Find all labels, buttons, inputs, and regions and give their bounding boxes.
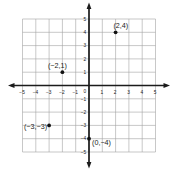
x-tick-label: 2 — [114, 90, 117, 95]
x-tick-label: 3 — [127, 90, 130, 95]
point-label: (0,−4) — [92, 138, 111, 147]
y-tick-label: 5 — [84, 17, 87, 22]
coordinate-plane-svg: −5−4−3−2−11234554321−1−2−3−4−50(2,4)(−2,… — [0, 0, 178, 172]
x-tick-label: 4 — [140, 90, 143, 95]
origin-tick-label: 0 — [84, 89, 87, 94]
y-tick-label: −3 — [81, 123, 87, 128]
y-tick-label: 1 — [84, 70, 87, 75]
x-tick-label: −4 — [33, 90, 39, 95]
y-tick-label: −5 — [81, 150, 87, 155]
y-tick-label: −1 — [81, 97, 87, 102]
data-point — [47, 124, 51, 128]
point-label: (2,4) — [113, 21, 128, 30]
point-label: (−3,−3) — [24, 122, 47, 131]
x-tick-label: 5 — [154, 90, 157, 95]
y-tick-label: 3 — [84, 43, 87, 48]
x-tick-label: −2 — [59, 90, 65, 95]
x-tick-label: −3 — [46, 90, 52, 95]
x-tick-label: 1 — [101, 90, 104, 95]
x-tick-label: −5 — [19, 90, 25, 95]
x-tick-label: −1 — [73, 90, 79, 95]
data-point — [61, 70, 65, 74]
graph-figure: −5−4−3−2−11234554321−1−2−3−4−50(2,4)(−2,… — [0, 0, 178, 172]
y-tick-label: −2 — [81, 110, 87, 115]
y-tick-label: 2 — [84, 57, 87, 62]
data-point — [114, 30, 118, 34]
y-tick-label: −4 — [81, 136, 87, 141]
point-label: (−2,1) — [48, 61, 67, 70]
data-point — [87, 137, 91, 141]
y-tick-label: 4 — [84, 30, 87, 35]
